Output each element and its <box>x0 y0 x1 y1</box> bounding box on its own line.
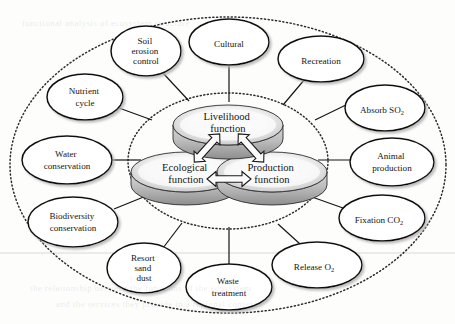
node-nutrient-cycle[interactable]: Nutrient cycle <box>47 74 123 120</box>
node-nutrient-cycle-shape <box>47 74 123 120</box>
connector-fixation-co2 <box>312 197 343 208</box>
node-fixation-co2-label: Fixation CO2 <box>355 215 403 226</box>
node-fixation-co2[interactable]: Fixation CO2 <box>339 195 425 241</box>
connector-soil-erosion-control <box>162 72 189 101</box>
figure-container: Livelihood function Ecological function … <box>0 0 455 324</box>
core-label-production: Production function <box>247 162 296 185</box>
node-waste-treatment-shape <box>186 264 272 310</box>
ecosystem-function-diagram: Livelihood function Ecological function … <box>0 0 455 324</box>
core-label-ecological: Ecological function <box>162 162 210 185</box>
connector-nutrient-cycle <box>119 108 152 120</box>
node-animal-production[interactable]: Animal production <box>350 138 434 186</box>
node-recreation-label: Recreation <box>301 56 341 66</box>
node-animal-production-shape <box>350 138 434 186</box>
node-resort-sand-dust[interactable]: Resort sand dust <box>107 243 181 293</box>
node-absorb-so2-label: Absorb SO2 <box>360 105 404 116</box>
node-release-o2[interactable]: Release O2 <box>272 242 362 288</box>
connector-recreation <box>283 79 305 105</box>
node-soil-erosion-control[interactable]: Soil erosion control <box>111 26 181 76</box>
node-recreation[interactable]: Recreation <box>278 36 364 82</box>
node-release-o2-label: Release O2 <box>294 262 334 273</box>
node-cultural-label: Cultural <box>214 39 244 49</box>
node-water-conservation[interactable]: Water conservation <box>22 136 112 184</box>
core-label-livelihood: Livelihood function <box>203 111 252 134</box>
node-water-conservation-shape <box>22 136 112 184</box>
node-biodiversity-conservation[interactable]: Biodiversity conservation <box>28 197 118 247</box>
core-function-cluster: Livelihood function Ecological function … <box>131 105 327 205</box>
connector-release-o2 <box>278 224 300 244</box>
connector-biodiversity-conservation <box>114 196 146 209</box>
node-waste-treatment[interactable]: Waste treatment <box>186 264 272 310</box>
connector-resort-sand-dust <box>163 223 182 248</box>
node-biodiversity-conservation-shape <box>28 197 118 247</box>
node-absorb-so2[interactable]: Absorb SO2 <box>345 85 425 131</box>
node-cultural[interactable]: Cultural <box>189 19 269 65</box>
